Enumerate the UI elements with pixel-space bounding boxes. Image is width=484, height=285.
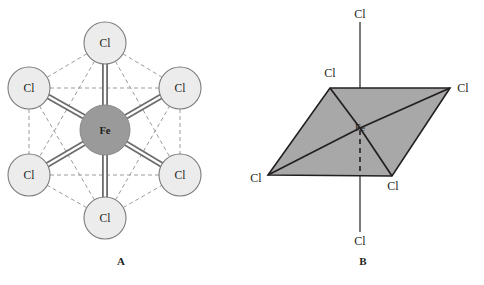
atom-cl-lower-left: Cl — [8, 154, 50, 196]
panel-a-diagram: Cl Cl Cl Cl Cl — [0, 0, 242, 250]
panel-b-caption: B — [242, 255, 484, 267]
atom-cl-top: Cl — [84, 22, 126, 64]
cl-label-bottom: Cl — [100, 212, 111, 224]
bond-fe-upperright-core — [122, 93, 167, 119]
panel-a-caption: A — [0, 255, 242, 267]
atom-cl-upper-left: Cl — [8, 67, 50, 109]
cl-label-lower-right: Cl — [175, 169, 186, 181]
cl-label-upper-left: Cl — [24, 82, 35, 94]
cl-label-lower-left: Cl — [24, 169, 35, 181]
cl-label-back-right: Cl — [457, 81, 469, 95]
cl-label-top: Cl — [100, 37, 111, 49]
cl-label-axial-top: Cl — [354, 7, 366, 21]
atom-cl-lower-right: Cl — [159, 154, 201, 196]
atom-fe-center-a: Fe — [80, 105, 130, 155]
cl-label-upper-right: Cl — [175, 82, 186, 94]
atom-cl-bottom: Cl — [84, 197, 126, 239]
atom-cl-upper-right: Cl — [159, 67, 201, 109]
cl-label-axial-bottom: Cl — [354, 234, 366, 248]
cl-label-back-left: Cl — [324, 66, 336, 80]
fe-label-b: Fe — [355, 122, 366, 133]
panel-a-octahedron: Cl Cl Cl Cl Cl — [0, 0, 242, 285]
figure-root: Cl Cl Cl Cl Cl — [0, 0, 484, 285]
cl-label-front-left: Cl — [250, 171, 262, 185]
bond-fe-upperleft-core — [42, 93, 88, 119]
fe-label-a: Fe — [99, 125, 110, 136]
bond-fe-lowerright-core — [122, 141, 167, 168]
panel-b-diagram: Fe Cl Cl Cl Cl Cl Cl — [242, 0, 484, 250]
bond-fe-lowerleft-core — [42, 141, 88, 168]
panel-b-square-planar: Fe Cl Cl Cl Cl Cl Cl B — [242, 0, 484, 285]
cl-label-front-right: Cl — [387, 179, 399, 193]
